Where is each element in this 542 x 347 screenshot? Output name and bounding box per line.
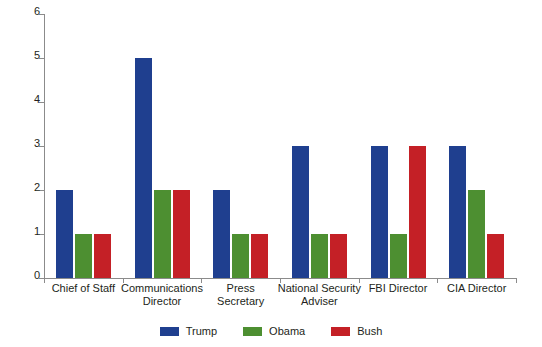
- y-axis-tick-label: 2: [34, 182, 40, 193]
- x-axis-label-line: Press: [195, 282, 286, 295]
- legend-swatch-icon: [243, 327, 262, 336]
- x-axis-labels: Chief of StaffCommunicationsDirectorPres…: [44, 282, 516, 322]
- y-axis-tick-label: 6: [34, 6, 40, 17]
- bar: [173, 190, 190, 278]
- bar: [292, 146, 309, 278]
- y-axis-tick-label: 4: [34, 94, 40, 105]
- x-axis-label-line: Chief of Staff: [38, 282, 129, 295]
- x-axis-label: CIA Director: [431, 282, 522, 295]
- x-axis-label: CommunicationsDirector: [117, 282, 208, 308]
- bar: [409, 146, 426, 278]
- x-axis-label-line: National Security: [274, 282, 365, 295]
- y-axis-tick-label: 3: [34, 138, 40, 149]
- bar-chart: 0123456 Chief of StaffCommunicationsDire…: [0, 0, 542, 347]
- y-axis-tick-label: 1: [34, 226, 40, 237]
- bar-group: [292, 14, 347, 278]
- x-axis-label-line: Secretary: [195, 295, 286, 308]
- bar: [371, 146, 388, 278]
- bar: [154, 190, 171, 278]
- bar: [330, 234, 347, 278]
- x-axis-label: FBI Director: [353, 282, 444, 295]
- bar-group: [371, 14, 426, 278]
- bar: [75, 234, 92, 278]
- x-axis-label-line: CIA Director: [431, 282, 522, 295]
- legend-item[interactable]: Obama: [243, 326, 305, 337]
- y-axis-tick-label: 5: [34, 50, 40, 61]
- legend-item[interactable]: Trump: [160, 326, 217, 337]
- bar: [213, 190, 230, 278]
- bar: [135, 58, 152, 278]
- legend-item[interactable]: Bush: [331, 326, 382, 337]
- bar-group: [449, 14, 504, 278]
- legend-label: Bush: [357, 326, 382, 337]
- plot-area: 0123456: [44, 14, 516, 278]
- bar: [311, 234, 328, 278]
- bar: [468, 190, 485, 278]
- x-axis-label: Chief of Staff: [38, 282, 129, 295]
- bar: [56, 190, 73, 278]
- legend-label: Obama: [269, 326, 305, 337]
- bar: [449, 146, 466, 278]
- x-axis-label: PressSecretary: [195, 282, 286, 308]
- legend-swatch-icon: [331, 327, 350, 336]
- chart-legend: TrumpObamaBush: [0, 326, 542, 337]
- x-axis-label-line: Communications: [117, 282, 208, 295]
- bar: [94, 234, 111, 278]
- legend-label: Trump: [186, 326, 217, 337]
- bar-group: [213, 14, 268, 278]
- bar-group: [135, 14, 190, 278]
- bar-groups: [44, 14, 516, 278]
- x-axis-label-line: Director: [117, 295, 208, 308]
- x-axis-label-line: Adviser: [274, 295, 365, 308]
- bar: [487, 234, 504, 278]
- bar-group: [56, 14, 111, 278]
- x-axis-label-line: FBI Director: [353, 282, 444, 295]
- x-axis-label: National SecurityAdviser: [274, 282, 365, 308]
- y-axis-tick-label: 0: [34, 270, 40, 281]
- legend-swatch-icon: [160, 327, 179, 336]
- bar: [390, 234, 407, 278]
- bar: [251, 234, 268, 278]
- bar: [232, 234, 249, 278]
